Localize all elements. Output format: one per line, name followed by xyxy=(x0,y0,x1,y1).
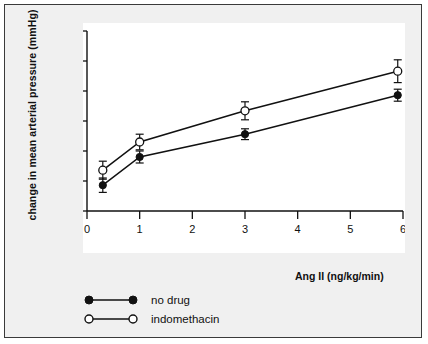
data-point xyxy=(136,153,143,160)
y-axis-label: change in mean arterial pressure (mmHg) xyxy=(26,0,38,230)
legend-label-indomethacin: indomethacin xyxy=(151,313,219,325)
data-point xyxy=(394,92,401,99)
chart-canvas: -505101520250123456 xyxy=(83,23,405,253)
legend-key-filled-circle-icon xyxy=(83,293,139,307)
data-point xyxy=(136,138,144,146)
x-tick-label: 6 xyxy=(400,223,405,235)
x-tick-label: 2 xyxy=(189,223,195,235)
x-tick-label: 5 xyxy=(347,223,353,235)
legend-item-indomethacin: indomethacin xyxy=(83,309,219,328)
series-indomethacin xyxy=(99,60,402,179)
plot-area: -505101520250123456 xyxy=(83,23,405,253)
legend-key-open-circle-icon xyxy=(83,312,139,326)
figure-panel: -505101520250123456 change in mean arter… xyxy=(4,4,422,338)
data-point xyxy=(241,107,249,115)
data-point xyxy=(394,67,402,75)
data-point xyxy=(99,166,107,174)
x-tick-label: 4 xyxy=(295,223,301,235)
x-tick-label: 1 xyxy=(137,223,143,235)
x-tick-label: 3 xyxy=(242,223,248,235)
x-axis-label: Ang II (ng/kg/min) xyxy=(295,270,384,282)
legend-label-no-drug: no drug xyxy=(151,294,190,306)
x-tick-label: 0 xyxy=(84,223,90,235)
legend-item-no-drug: no drug xyxy=(83,290,219,309)
data-point xyxy=(99,182,106,189)
data-point xyxy=(241,131,248,138)
chart-legend: no drug indomethacin xyxy=(83,290,219,328)
